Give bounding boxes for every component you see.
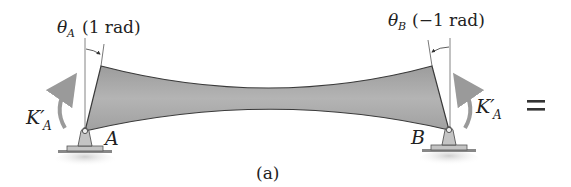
moment-left-label: K′ A — [25, 106, 52, 133]
moment-left-subscript: A — [42, 119, 52, 133]
theta-a-symbol: θ — [57, 17, 67, 37]
moment-right-subscript: A — [492, 108, 502, 122]
moment-right-label: K′ A — [475, 95, 502, 122]
theta-b-tick — [428, 40, 432, 66]
moment-arrow-left-icon — [60, 86, 68, 128]
theta-a-value: (1 rad) — [82, 17, 141, 37]
beam-stiffness-diagram: θ A (1 rad) θ B (−1 rad) K′ A K′ A A B (… — [0, 0, 571, 187]
theta-b-subscript: B — [397, 20, 406, 33]
equals-sign — [527, 100, 545, 111]
moment-arrow-right-icon — [462, 86, 470, 128]
theta-a-subscript: A — [66, 27, 75, 40]
theta-b-value: (−1 rad) — [412, 10, 485, 30]
figure-caption: (a) — [256, 163, 279, 183]
theta-b-arc — [432, 47, 449, 52]
theta-b-label: θ B (−1 rad) — [388, 10, 485, 33]
theta-a-label: θ A (1 rad) — [57, 17, 141, 40]
theta-b-symbol: θ — [388, 10, 398, 30]
theta-a-arc — [86, 49, 100, 54]
pin-support-b-icon — [419, 127, 479, 168]
support-a-label: A — [103, 127, 119, 149]
theta-a-tick — [101, 44, 104, 66]
support-b-label: B — [410, 126, 425, 148]
deformed-beam — [85, 66, 449, 131]
